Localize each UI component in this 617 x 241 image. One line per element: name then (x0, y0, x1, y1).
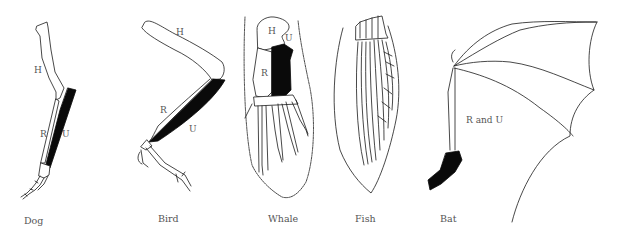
forelimb-homology-diagram: H R U H R U H U R R and U Dog Bird Whale… (0, 0, 617, 241)
caption-dog: Dog (24, 216, 43, 226)
bird-ulna-label: U (189, 125, 197, 134)
caption-fish: Fish (355, 214, 376, 224)
caption-whale: Whale (268, 214, 298, 224)
caption-bird: Bird (158, 214, 179, 224)
bird-humerus-label: H (176, 28, 184, 37)
bat-wing-icon (428, 22, 597, 223)
bat-radius-ulna-label: R and U (466, 116, 503, 125)
dog-radius-label: R (40, 130, 47, 139)
bird-radius-label: R (160, 106, 167, 115)
whale-ulna-label: U (285, 34, 293, 43)
fish-fin-icon (334, 16, 399, 193)
whale-flipper-icon (244, 17, 313, 198)
dog-humerus-label: H (34, 66, 42, 75)
bird-wing-icon (138, 21, 225, 191)
whale-humerus-label: H (268, 27, 276, 36)
caption-bat: Bat (440, 214, 456, 224)
dog-ulna-label: U (62, 130, 70, 139)
dog-forelimb-icon (21, 22, 76, 199)
whale-radius-label: R (261, 69, 268, 78)
diagram-drawing (0, 0, 617, 241)
